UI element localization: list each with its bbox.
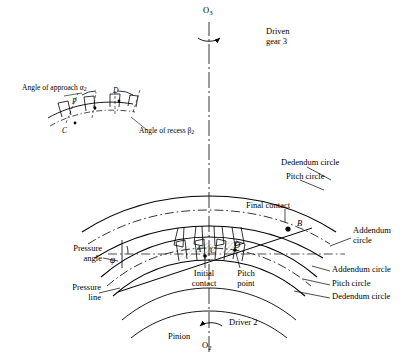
label-inset-d: D [113,87,118,96]
label-pressure-angle: Pressure angle [42,244,102,264]
label-angle-of-recess: Angle of recess β2 [139,127,194,136]
label-addendum-circle-right: Addendum circle [332,265,391,275]
label-driver: Driver 2 [229,318,258,328]
label-point-a: A [196,245,201,255]
label-o2: O2 [202,341,211,351]
label-o3: O3 [203,6,212,16]
label-dedendum-circle-top: Dedendum circle [281,158,339,168]
inset-tooth-detail [48,90,147,130]
figure-canvas: O3 Driven gear 3 Angle of approach α2 P … [0,0,419,359]
label-pitch-circle-right: Pitch circle [332,279,370,289]
label-dedendum-circle-right: Dedendum circle [332,292,390,302]
label-final-contact: Final contact [246,201,290,211]
point-a-marker [203,254,207,258]
label-phi: φ [110,255,115,266]
label-inset-c: C [62,127,67,136]
label-point-b: B [297,219,302,229]
label-driven-gear: Driven gear 3 [266,27,290,47]
label-point-c: C [210,246,216,256]
label-point-d: D [234,241,240,251]
label-initial-contact: Initial contact [183,269,225,289]
label-pitch-circle-top: Pitch circle [286,172,324,182]
label-pressure-line: Pressure line [45,283,101,303]
driver-rotation-arrow [200,323,222,326]
diagram-vector-layer [0,0,419,359]
point-b-marker [285,226,290,231]
label-inset-p: P [72,98,77,107]
label-pitch-point: Pitch point [228,269,264,289]
label-pinion: Pinion [168,332,190,342]
label-addendum-circle-top-right: Addendum circle [353,226,391,246]
label-angle-of-approach: Angle of approach α2 [22,84,87,93]
